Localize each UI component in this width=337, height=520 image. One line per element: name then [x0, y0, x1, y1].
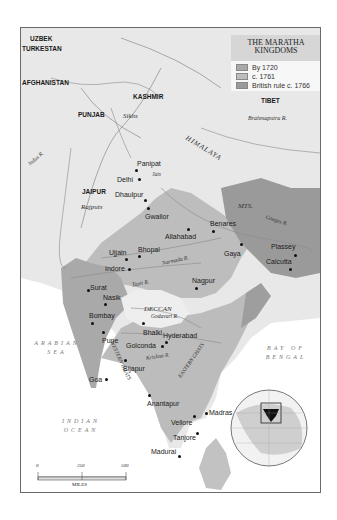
city-gwalior: Gwalior: [145, 213, 169, 220]
city-dot: [196, 432, 199, 435]
scale-tick-0: 0: [36, 463, 39, 468]
city-dot: [212, 230, 215, 233]
city-surat: Surat: [90, 284, 107, 291]
city-bhalki: Bhalki: [143, 329, 162, 336]
people-jats: Jats: [152, 172, 161, 178]
region-kashmir: KASHMIR: [133, 94, 163, 101]
city-dot: [138, 255, 141, 258]
region-turkestan: TURKESTAN: [22, 46, 62, 53]
city-dot: [187, 228, 190, 231]
city-madurai: Madurai: [151, 448, 176, 455]
city-calcutta: Calcutta: [266, 258, 292, 265]
city-hyderabad: Hyderabad: [163, 332, 197, 339]
city-dot: [161, 345, 164, 348]
legend-items: By 1720 c. 1761 British rule c. 1766: [231, 61, 321, 91]
city-ujjain: Ujjain: [109, 249, 127, 256]
city-bhopal: Bhopal: [138, 246, 160, 253]
sea-label: BAY OF: [255, 345, 317, 351]
city-dot: [294, 254, 297, 257]
city-dot: [125, 258, 128, 261]
city-bijapur: Bijapur: [123, 365, 145, 372]
legend-box: THE MARATHA KINGDOMS By 1720 c. 1761 Bri…: [231, 35, 321, 90]
city-nasik: Nasik: [103, 294, 121, 301]
city-dot: [124, 359, 127, 362]
city-plassey: Plassey: [271, 243, 296, 250]
city-dot: [289, 268, 292, 271]
city-dot: [104, 303, 107, 306]
city-dot: [144, 199, 147, 202]
river-brahmaputra: Brahmaputra R.: [248, 115, 287, 121]
city-madras: Madras: [209, 409, 232, 416]
region-tibet: TIBET: [261, 98, 280, 105]
city-dot: [195, 287, 198, 290]
city-anantapur: Anantapur: [147, 400, 179, 407]
legend-item-1720: By 1720: [231, 63, 321, 72]
map-title: THE MARATHA KINGDOMS: [231, 39, 321, 56]
swatch-icon: [236, 82, 248, 89]
city-gaya: Gaya: [224, 250, 241, 257]
sea-label: INDIAN: [51, 418, 111, 424]
city-dot: [128, 268, 131, 271]
city-dot: [135, 169, 138, 172]
sea-indian: INDIANOCEAN: [51, 418, 111, 433]
legend-label: c. 1761: [252, 73, 275, 80]
scale-unit: MILES: [72, 482, 87, 487]
city-dot: [178, 455, 181, 458]
legend-item-1761: c. 1761: [231, 72, 321, 81]
scale-tick-250: 250: [77, 463, 85, 468]
people-sikhs: Sikhs: [123, 113, 138, 120]
river-godavari: Godavari R.: [151, 314, 178, 320]
city-dot: [165, 341, 168, 344]
city-delhi: Delhi: [117, 176, 133, 183]
city-dot: [205, 412, 208, 415]
city-dot: [138, 178, 141, 181]
sea-label: SEA: [27, 349, 87, 355]
city-dot: [91, 322, 94, 325]
region-deccan: DECCAN: [144, 306, 172, 313]
people-rajputs: Rajputs: [81, 204, 102, 211]
city-bombay: Bombay: [89, 312, 115, 319]
city-dot: [148, 394, 151, 397]
legend-item-british: British rule c. 1766: [231, 81, 321, 90]
city-dot: [102, 331, 105, 334]
sea-bengal: BAY OFBENGAL: [255, 345, 317, 360]
city-indore: Indore: [105, 265, 125, 272]
sea-label: ARABIAN: [27, 340, 87, 346]
city-dot: [105, 378, 108, 381]
sea-label: BENGAL: [255, 354, 317, 360]
scale-tick-500: 500: [121, 463, 129, 468]
legend-label: By 1720: [252, 64, 278, 71]
city-allahabad: Allahabad: [165, 233, 196, 240]
city-vellore: Vellore: [171, 419, 192, 426]
city-tanjore: Tanjore: [173, 434, 196, 441]
swatch-icon: [236, 73, 248, 80]
region-afghanistan: AFGHANISTAN: [22, 80, 69, 87]
scale-bar: 0 250 500 MILES: [36, 463, 136, 493]
region-jaipur: JAIPUR: [82, 189, 106, 196]
sea-label: OCEAN: [51, 427, 111, 433]
city-dot: [147, 207, 150, 210]
region-punjab: PUNJAB: [78, 112, 105, 119]
map-frame: THE MARATHA KINGDOMS By 1720 c. 1761 Bri…: [20, 27, 321, 493]
title-line-2: KINGDOMS: [231, 47, 321, 55]
city-dhaulpur: Dhaulpur: [115, 191, 143, 198]
city-dot: [193, 415, 196, 418]
globe-inset: [231, 390, 307, 466]
city-benares: Benares: [210, 220, 236, 227]
city-dot: [240, 243, 243, 246]
legend-label: British rule c. 1766: [252, 82, 310, 89]
swatch-icon: [236, 64, 248, 71]
sea-arabian: ARABIANSEA: [27, 340, 87, 355]
city-nagpur: Nagpur: [192, 277, 215, 284]
region-uzbek: UZBEK: [30, 36, 52, 43]
city-golconda: Golconda: [126, 342, 156, 349]
city-panipat: Panipat: [137, 160, 161, 167]
mountains-mts: MTS.: [238, 203, 253, 210]
city-goa: Goa: [89, 376, 102, 383]
city-dot: [142, 322, 145, 325]
city-pune: Pune: [102, 337, 118, 344]
